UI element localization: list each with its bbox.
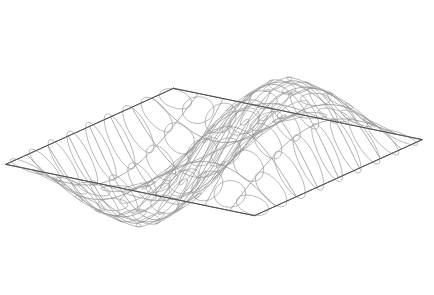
- grid-line-u: [205, 87, 373, 205]
- curvature-ellipse: [274, 151, 305, 198]
- grid-line-u: [56, 99, 224, 217]
- curvature-ellipse: [214, 181, 246, 208]
- surface-plot: [0, 0, 434, 295]
- curvature-ellipse: [29, 149, 60, 182]
- curvature-ellipse: [236, 195, 268, 215]
- wireframe-grid-layer: [6, 81, 422, 224]
- curvature-ellipse: [293, 135, 324, 190]
- curvature-ellipse: [33, 170, 65, 186]
- curvature-ellipse: [159, 89, 191, 109]
- curvature-ellipse: [367, 122, 398, 155]
- curvature-ellipse: [182, 97, 214, 124]
- curvature-ellipse: [104, 114, 135, 169]
- curvature-ellipse: [123, 106, 154, 153]
- figure-root: [0, 0, 434, 295]
- curvature-ellipse: [363, 118, 395, 134]
